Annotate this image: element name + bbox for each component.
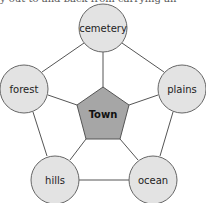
- forest-label: forest: [10, 84, 39, 95]
- node-ocean: ocean: [129, 156, 177, 203]
- cemetery-label: cemetery: [79, 23, 127, 34]
- node-town: Town: [77, 87, 129, 139]
- hills-label: hills: [45, 175, 65, 186]
- node-forest: forest: [0, 65, 48, 113]
- edge-town-plains: [129, 95, 158, 105]
- town-label: Town: [89, 109, 118, 120]
- node-hills: hills: [31, 156, 79, 203]
- plains-label: plains: [167, 84, 197, 95]
- node-cemetery: cemetery: [79, 4, 127, 52]
- ocean-label: ocean: [138, 175, 168, 186]
- edge-town-ocean: [120, 139, 138, 160]
- edge-plains-ocean: [160, 112, 173, 156]
- node-plains: plains: [158, 65, 206, 113]
- edge-town-hills: [70, 139, 86, 160]
- edge-cemetery-forest: [42, 43, 84, 72]
- edge-cemetery-plains: [122, 43, 164, 72]
- edge-forest-hills: [33, 112, 47, 156]
- town-map-diagram: Town cemetery forest plains hills ocean: [0, 0, 206, 203]
- edge-town-forest: [48, 95, 77, 105]
